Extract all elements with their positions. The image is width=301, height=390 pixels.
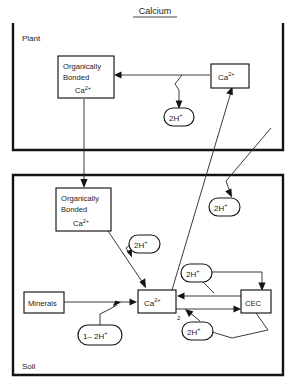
plant-organic-line1: Organically [63, 62, 101, 71]
flow-mineral-h-to-minerals-line [100, 305, 117, 325]
soil-compartment-label: Soil [22, 362, 36, 371]
node-soil-2h-organic: 2H+ [129, 235, 160, 253]
soil-compartment-frame [13, 175, 283, 375]
node-plant-organically-bonded-ca: Organically Bonded Ca2+ [58, 56, 114, 98]
node-mineral-1-2h: 1– 2H+ [78, 325, 122, 345]
arrowhead-soil-h-upper-right-in [225, 189, 232, 198]
soil-organic-line2: Bonded [61, 205, 87, 214]
flow-uptake-diagonal-stub [226, 128, 271, 181]
arrowhead-soil-h-cec-out-join [185, 309, 194, 317]
calcium-cycle-diagram: Calcium Plant Soil [0, 0, 301, 390]
arrowhead-plant-organic-in [114, 72, 122, 79]
node-soil-2h-upper-right: 2H+ [209, 198, 240, 216]
soil-ca-subscript: 2 [177, 315, 181, 321]
node-soil-2h-cec-out: 2H+ [182, 322, 213, 340]
mineral-h-label: 1– 2H+ [83, 330, 108, 341]
arrowhead-soil-ca-in-from-cec [177, 293, 185, 300]
diagram-canvas: Calcium Plant Soil [0, 0, 301, 390]
flow-soil-h-cec-in-to-cec-loop [212, 272, 262, 286]
node-plant-ca: Ca2+ [211, 64, 249, 88]
plant-organic-line2: Bonded [63, 73, 89, 82]
node-soil-2h-cec-in: 2H+ [181, 264, 212, 282]
flow-soil-h-cec-in-join [202, 281, 214, 293]
node-soil-ca: Ca2+ 2 [138, 290, 181, 321]
plant-compartment-label: Plant [22, 34, 41, 43]
minerals-label: Minerals [28, 299, 57, 308]
node-soil-organically-bonded-ca: Organically Bonded Ca2+ [56, 188, 111, 231]
cec-label: CEC [245, 299, 262, 308]
arrowhead-soil-organic-in [80, 179, 87, 188]
diagram-title: Calcium [139, 6, 172, 16]
node-minerals: Minerals [24, 292, 64, 313]
node-plant-2h: 2H+ [164, 108, 194, 126]
arrowhead-cec-in-from-soil-ca [234, 306, 242, 313]
flow-cec-to-soil-h-cec-out-loop [212, 313, 268, 338]
soil-organic-line1: Organically [61, 194, 99, 203]
node-cec: CEC [241, 290, 271, 313]
arrowhead-soil-ca-in-from-minerals [130, 299, 138, 306]
flow-plant-ca-to-plant-h [175, 75, 182, 104]
